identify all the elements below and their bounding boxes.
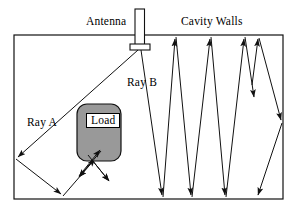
- load-label: Load: [86, 113, 120, 128]
- ray-b-label: Ray B: [127, 77, 157, 89]
- antenna-label: Antenna: [86, 16, 126, 28]
- ray-diagram-figure: Antenna Cavity Walls Ray B Ray A Load: [0, 0, 296, 213]
- diagram-canvas: [0, 0, 296, 213]
- ray-a-label: Ray A: [27, 117, 57, 129]
- ray-b-path: [141, 37, 282, 197]
- antenna-icon: [130, 9, 150, 50]
- cavity-walls-label: Cavity Walls: [181, 16, 243, 28]
